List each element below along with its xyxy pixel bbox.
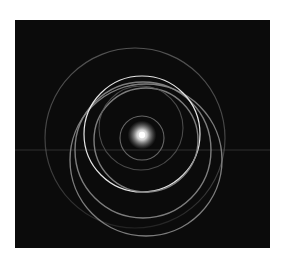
star-core	[139, 132, 145, 138]
orbit-scene	[0, 0, 283, 266]
central-star	[128, 121, 157, 150]
